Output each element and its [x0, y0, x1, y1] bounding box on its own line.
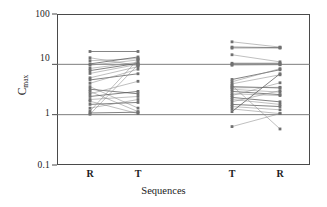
series-markers	[89, 40, 282, 130]
x-axis-title: Sequences	[0, 185, 327, 196]
x-tick-label-right-r: R	[268, 168, 292, 179]
y-tick-marks	[52, 14, 57, 165]
y-tick-label-0.1: 0.1	[16, 160, 50, 170]
y-tick-label-100: 100	[16, 9, 50, 19]
x-tick-label-left-r: R	[78, 168, 102, 179]
y-axis-title-base: C	[16, 88, 28, 96]
chart-figure: 100 10 1 0.1 Cmax R T T R Sequences	[0, 0, 327, 207]
x-tick-label-left-t: T	[126, 168, 150, 179]
x-tick-label-right-t: T	[220, 168, 244, 179]
series-lines	[90, 42, 280, 129]
y-axis-title-subscript: max	[21, 75, 30, 88]
y-axis-title: Cmax	[16, 45, 30, 125]
